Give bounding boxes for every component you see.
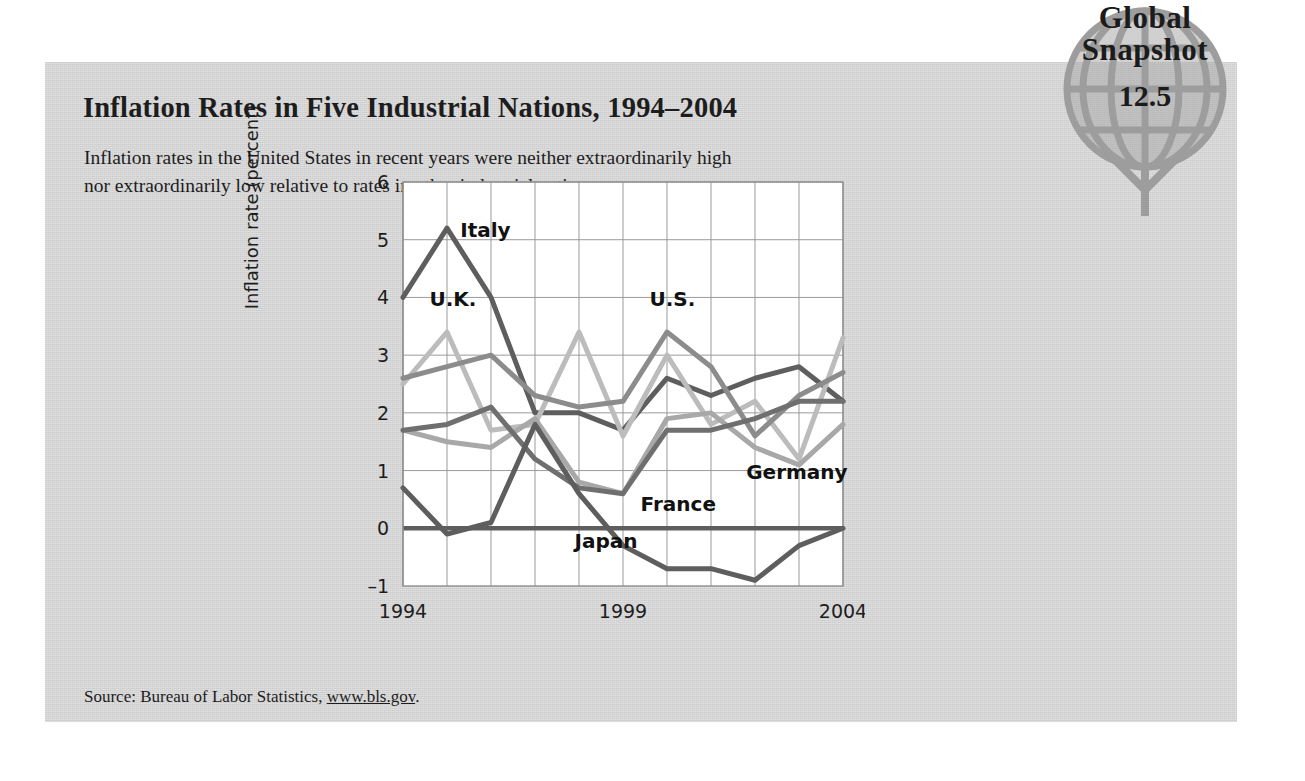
x-tick-label: 1994 xyxy=(379,600,427,622)
badge-line-1: Global xyxy=(1045,2,1245,34)
series-label-italy: Italy xyxy=(460,218,510,242)
x-tick-label: 2004 xyxy=(819,600,865,622)
source-link[interactable]: www.bls.gov xyxy=(327,687,415,706)
y-tick-label: 1 xyxy=(377,460,389,482)
y-tick-label: –1 xyxy=(367,575,389,597)
y-tick-label: 0 xyxy=(377,517,389,539)
series-label-france: France xyxy=(641,492,716,516)
source-suffix: . xyxy=(415,687,419,706)
badge-text: Global Snapshot 12.5 xyxy=(1045,2,1245,112)
series-label-uk: U.K. xyxy=(429,287,476,311)
series-label-japan: Japan xyxy=(573,529,638,553)
y-tick-label: 4 xyxy=(377,286,389,308)
y-tick-label: 2 xyxy=(377,402,389,424)
y-tick-label: 5 xyxy=(377,229,389,251)
series-label-us: U.S. xyxy=(649,287,695,311)
x-tick-label: 1999 xyxy=(599,600,647,622)
chart-canvas: –10123456199419992004ItalyU.K.U.S.German… xyxy=(245,174,865,674)
badge-line-2: Snapshot xyxy=(1045,34,1245,66)
y-tick-label: 3 xyxy=(377,344,389,366)
line-chart: Inflation rate (percent) –10123456199419… xyxy=(245,174,865,674)
series-label-germany: Germany xyxy=(746,460,847,484)
badge-number: 12.5 xyxy=(1045,81,1245,112)
source-note: Source: Bureau of Labor Statistics, www.… xyxy=(84,687,419,707)
page-title: Inflation Rates in Five Industrial Natio… xyxy=(83,92,737,124)
source-prefix: Source: Bureau of Labor Statistics, xyxy=(84,687,327,706)
y-tick-label: 6 xyxy=(377,174,389,193)
